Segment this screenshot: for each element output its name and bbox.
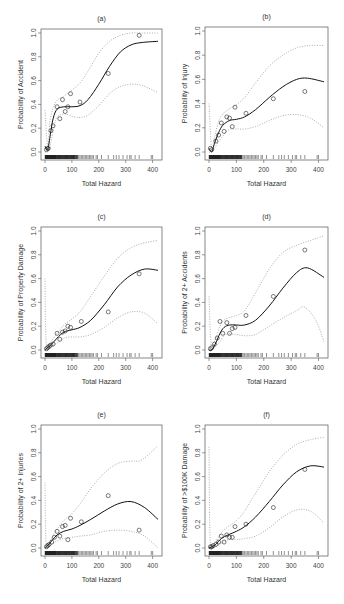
x-tick-label: 400 [313, 166, 324, 173]
data-point [60, 98, 64, 102]
data-point [230, 535, 234, 539]
data-point [233, 105, 237, 109]
y-tick-label: 0.8 [30, 250, 37, 259]
y-tick-label: 0.8 [194, 50, 201, 59]
x-tick-label: 0 [207, 562, 211, 569]
y-tick-label: 0.6 [194, 274, 201, 283]
panel-title: (c) [97, 213, 105, 221]
fitted-curve [45, 269, 158, 350]
data-point [228, 331, 232, 335]
y-tick-label: 0.2 [194, 321, 201, 330]
x-tick-label: 300 [120, 562, 131, 569]
data-point [271, 506, 275, 510]
x-tick-label: 0 [43, 364, 47, 371]
y-tick-label: 0.4 [30, 496, 37, 505]
plot-frame [205, 27, 328, 160]
x-tick-label: 400 [313, 562, 324, 569]
chart-panel-e: (e)0.00.20.40.60.81.00100200300400Total … [17, 411, 162, 583]
x-axis-label: Total Hazard [247, 576, 286, 583]
panel-title: (f) [263, 411, 270, 419]
y-tick-label: 0.4 [194, 99, 201, 108]
x-tick-label: 200 [258, 166, 269, 173]
x-tick-label: 400 [313, 364, 324, 371]
x-tick-label: 200 [258, 364, 269, 371]
data-point [221, 331, 225, 335]
chart-panel-a: (a)0.00.20.40.60.81.00100200300400Total … [17, 15, 162, 187]
data-point [55, 529, 59, 533]
x-tick-label: 200 [258, 562, 269, 569]
panel-title: (b) [262, 13, 271, 21]
chart-panel-f: (f)0.00.20.40.60.81.00100200300400Total … [181, 411, 328, 583]
data-point [66, 538, 70, 542]
x-tick-label: 400 [147, 562, 158, 569]
data-point [137, 33, 141, 37]
data-point [303, 248, 307, 252]
y-tick-label: 0.0 [30, 543, 37, 552]
y-tick-label: 0.8 [30, 448, 37, 457]
y-tick-label: 0.6 [194, 472, 201, 481]
y-tick-label: 0.6 [30, 274, 37, 283]
upper-confidence-band [209, 45, 324, 151]
y-tick-label: 0.6 [30, 76, 37, 85]
data-point [106, 71, 110, 75]
y-axis-label: Probability of 2+ Accidents [181, 251, 189, 334]
data-point [78, 100, 82, 104]
y-axis-label: Probability of Injury [181, 63, 189, 123]
plot-frame [41, 227, 162, 358]
x-tick-label: 100 [66, 562, 77, 569]
y-tick-label: 0.2 [30, 519, 37, 528]
y-tick-label: 0.2 [30, 321, 37, 330]
x-axis-label: Total Hazard [82, 180, 121, 187]
y-tick-label: 1.0 [30, 28, 37, 37]
data-point [303, 467, 307, 471]
data-point [271, 294, 275, 298]
y-tick-label: 0.6 [30, 472, 37, 481]
data-point [69, 516, 73, 520]
chart-panel-c: (c)0.00.20.40.60.81.00100200300400Total … [17, 213, 162, 385]
plot-frame [205, 227, 328, 358]
panel-title: (e) [97, 411, 106, 419]
x-tick-label: 300 [286, 364, 297, 371]
data-point [55, 105, 59, 109]
x-axis-label: Total Hazard [82, 378, 121, 385]
y-tick-label: 0.8 [194, 448, 201, 457]
x-tick-label: 200 [93, 166, 104, 173]
x-tick-label: 300 [120, 364, 131, 371]
data-point [225, 321, 229, 325]
fitted-curve [209, 466, 324, 548]
upper-confidence-band [45, 33, 158, 146]
x-axis-label: Total Hazard [247, 378, 286, 385]
y-tick-label: 1.0 [194, 226, 201, 235]
y-axis-label: Probability of >$100K Damage [181, 443, 189, 538]
plot-frame [41, 425, 162, 556]
y-tick-label: 0.2 [194, 519, 201, 528]
lower-confidence-band [209, 114, 324, 152]
x-tick-label: 100 [231, 364, 242, 371]
panel-title: (d) [262, 213, 271, 221]
x-tick-label: 200 [93, 364, 104, 371]
data-point [58, 534, 62, 538]
data-point [218, 319, 222, 323]
y-axis-label: Probability of Accident [17, 60, 25, 129]
y-axis-label: Probability of 2+ Injuries [17, 453, 25, 528]
x-tick-label: 400 [147, 166, 158, 173]
y-tick-label: 0.4 [30, 100, 37, 109]
y-tick-label: 1.0 [30, 226, 37, 235]
fitted-curve [209, 268, 324, 351]
y-tick-label: 0.0 [194, 543, 201, 552]
x-tick-label: 0 [43, 166, 47, 173]
data-point [230, 125, 234, 129]
data-point [219, 121, 223, 125]
x-tick-label: 200 [93, 562, 104, 569]
lower-confidence-band [45, 530, 158, 548]
lower-confidence-band [45, 311, 158, 350]
y-tick-label: 0.0 [30, 147, 37, 156]
x-tick-label: 100 [231, 166, 242, 173]
fitted-curve [45, 41, 158, 150]
y-tick-label: 0.4 [194, 298, 201, 307]
x-tick-label: 300 [120, 166, 131, 173]
x-tick-label: 0 [207, 364, 211, 371]
chart-panel-b: (b)0.00.20.40.60.81.00100200300400Total … [181, 13, 328, 187]
chart-panel-d: (d)0.00.20.40.60.81.00100200300400Total … [181, 213, 328, 385]
data-point [58, 117, 62, 121]
